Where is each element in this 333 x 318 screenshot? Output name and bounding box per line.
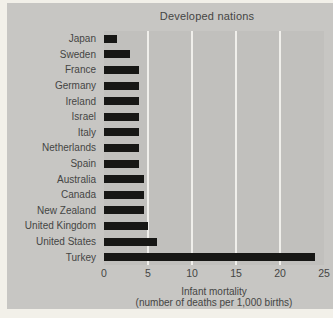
x-tick-label: 15 xyxy=(230,267,242,279)
x-tick-label: 5 xyxy=(145,267,151,279)
bar-row xyxy=(104,47,324,63)
bar-rows xyxy=(104,31,324,265)
bar-row xyxy=(104,218,324,234)
bar-row xyxy=(104,234,324,250)
bar-row xyxy=(104,31,324,47)
chart-panel: Developed nations JapanSwedenFranceGerma… xyxy=(7,3,333,309)
country-label: United States xyxy=(7,234,96,250)
bar-italy xyxy=(104,128,139,136)
bar-france xyxy=(104,66,139,74)
bar-japan xyxy=(104,35,117,43)
bar-israel xyxy=(104,113,139,121)
x-axis-label-line1: Infant mortality xyxy=(84,286,333,297)
bar-australia xyxy=(104,175,144,183)
x-axis-ticks: 0510152025 xyxy=(104,267,324,280)
bar-united-states xyxy=(104,238,157,246)
chart-title: Developed nations xyxy=(97,10,317,22)
bar-germany xyxy=(104,82,139,90)
bar-united-kingdom xyxy=(104,222,148,230)
x-axis-label-line2: (number of deaths per 1,000 births) xyxy=(84,297,333,308)
bar-row xyxy=(104,249,324,265)
country-label: New Zealand xyxy=(7,203,96,219)
bar-row xyxy=(104,125,324,141)
bar-turkey xyxy=(104,253,315,261)
bar-row xyxy=(104,171,324,187)
country-label: Turkey xyxy=(7,249,96,265)
infant-mortality-figure: Developed nations JapanSwedenFranceGerma… xyxy=(0,0,333,318)
bar-sweden xyxy=(104,50,130,58)
country-label: Germany xyxy=(7,78,96,94)
x-tick-label: 20 xyxy=(274,267,286,279)
bar-netherlands xyxy=(104,144,139,152)
x-axis-label: Infant mortality (number of deaths per 1… xyxy=(84,286,333,308)
country-label: Australia xyxy=(7,171,96,187)
country-label: United Kingdom xyxy=(7,218,96,234)
bar-row xyxy=(104,140,324,156)
country-label: Italy xyxy=(7,125,96,141)
bar-row xyxy=(104,62,324,78)
bar-row xyxy=(104,93,324,109)
bar-row xyxy=(104,109,324,125)
bar-row xyxy=(104,156,324,172)
bar-new-zealand xyxy=(104,206,144,214)
bar-spain xyxy=(104,160,139,168)
country-label: Japan xyxy=(7,31,96,47)
plot-area xyxy=(104,31,324,265)
country-label: France xyxy=(7,62,96,78)
y-axis-labels: JapanSwedenFranceGermanyIrelandIsraelIta… xyxy=(7,31,96,265)
bar-row xyxy=(104,187,324,203)
bar-row xyxy=(104,203,324,219)
country-label: Canada xyxy=(7,187,96,203)
country-label: Sweden xyxy=(7,47,96,63)
bar-ireland xyxy=(104,97,139,105)
bar-row xyxy=(104,78,324,94)
country-label: Israel xyxy=(7,109,96,125)
bar-canada xyxy=(104,191,144,199)
x-tick-label: 25 xyxy=(318,267,330,279)
x-tick-label: 10 xyxy=(186,267,198,279)
x-tick-label: 0 xyxy=(101,267,107,279)
country-label: Spain xyxy=(7,156,96,172)
country-label: Netherlands xyxy=(7,140,96,156)
country-label: Ireland xyxy=(7,93,96,109)
